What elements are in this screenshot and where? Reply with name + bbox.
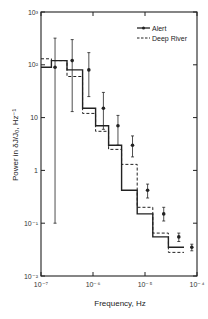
legend-label-alert: Alert (152, 25, 166, 32)
y-axis-title: Power in δJ/J₀, Hz⁻¹ (11, 109, 20, 182)
x-tick-label: 10⁻⁵ (138, 281, 153, 288)
alert-marker (190, 245, 194, 249)
deep-river-step-line (41, 59, 184, 253)
alert-marker (146, 188, 150, 192)
alert-marker (177, 235, 181, 239)
alert-marker (116, 124, 120, 128)
alert-marker (53, 65, 57, 69)
legend-label-deep-river: Deep River (152, 35, 188, 43)
y-tick-label: 10⁻¹ (24, 220, 39, 227)
plot-frame (41, 12, 197, 276)
legend-marker-icon (142, 27, 145, 30)
y-tick-label: 10² (28, 61, 39, 68)
alert-marker (102, 107, 106, 111)
x-tick-label: 10⁻⁷ (34, 281, 49, 288)
alert-step-line (41, 61, 184, 248)
alert-marker (131, 143, 135, 147)
legend: Alert Deep River (137, 25, 188, 43)
series-layer (41, 38, 194, 252)
alert-marker (162, 212, 166, 216)
x-axis-title: Frequency, Hz (94, 299, 145, 308)
x-tick-label: 10⁻⁶ (86, 281, 101, 288)
x-tick-label: 10⁻⁴ (190, 281, 205, 288)
alert-marker (87, 68, 91, 72)
axes-layer: 10⁻²10⁻¹11010²10³10⁻⁷10⁻⁶10⁻⁵10⁻⁴ (24, 9, 205, 289)
y-tick-label: 10 (30, 114, 38, 121)
y-tick-label: 10³ (28, 9, 39, 16)
y-tick-label: 1 (34, 167, 38, 174)
y-tick-label: 10⁻² (24, 273, 39, 280)
chart-canvas: 10⁻²10⁻¹11010²10³10⁻⁷10⁻⁶10⁻⁵10⁻⁴ Alert … (0, 0, 208, 319)
alert-marker (70, 59, 74, 63)
